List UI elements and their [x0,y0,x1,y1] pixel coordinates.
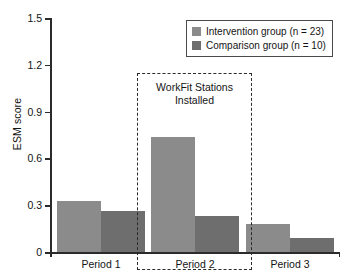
y-tick-label: 0 [36,246,42,258]
annotation-line-1: WorkFit Stations [137,81,252,94]
bar-period-1-intervention[interactable] [57,201,101,252]
y-tick-mark [45,65,50,67]
y-tick-mark [45,18,50,20]
legend-swatch-icon [192,27,201,36]
x-label-period-1: Period 1 [57,258,145,270]
y-tick-mark [45,158,50,160]
bar-period-3-intervention[interactable] [246,224,290,252]
y-tick-mark [45,205,50,207]
legend-label: Intervention group (n = 23) [206,26,324,37]
x-label-period-2: Period 2 [151,258,239,270]
y-tick-mark [45,252,50,254]
bar-period-2-intervention[interactable] [151,137,195,252]
annotation-line-2: Installed [137,94,252,107]
y-tick-label: 0.9 [27,106,42,118]
bar-period-3-comparison[interactable] [290,238,334,252]
y-axis-line [50,18,52,252]
y-tick-label: 1.5 [27,12,42,24]
annotation-label: WorkFit Stations Installed [137,81,252,107]
y-tick-label: 0.6 [27,152,42,164]
bar-period-1-comparison[interactable] [101,211,145,252]
y-tick-mark [45,112,50,114]
x-axis-endcap-right [339,252,341,257]
y-tick-label: 0.3 [27,199,42,211]
x-axis-endcap-left [50,252,52,257]
x-label-period-3: Period 3 [246,258,334,270]
bar-chart: ESM score 1.5 1.2 0.9 0.6 0.3 0 [0,0,352,278]
legend-label: Comparison group (n = 10) [206,40,326,51]
legend: Intervention group (n = 23) Comparison g… [186,20,333,57]
legend-swatch-icon [192,41,201,50]
x-axis-line [50,252,340,254]
y-axis-title: ESM score [11,74,23,174]
bar-group-period-1: Period 1 [57,18,145,252]
bar-period-2-comparison[interactable] [195,216,239,252]
y-tick-label: 1.2 [27,59,42,71]
legend-item-comparison[interactable]: Comparison group (n = 10) [192,38,326,52]
legend-item-intervention[interactable]: Intervention group (n = 23) [192,24,326,38]
